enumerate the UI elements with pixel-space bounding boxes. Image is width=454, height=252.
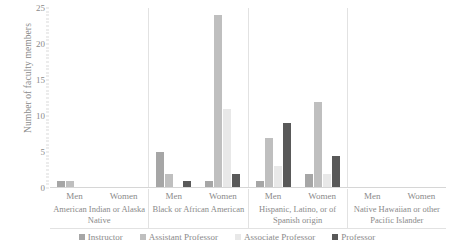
- y-minor-tick: [46, 105, 49, 106]
- x-gender-row: MenWomen: [348, 189, 446, 203]
- y-minor-tick: [46, 173, 49, 174]
- legend-item[interactable]: Assistant Professor: [140, 232, 218, 242]
- race-group: [50, 8, 149, 188]
- x-gender-label: Women: [198, 189, 247, 203]
- x-race-cell: MenWomenNative Hawaiian or other Pacific…: [348, 189, 446, 229]
- bar: [156, 152, 164, 188]
- y-minor-tick: [46, 80, 49, 81]
- y-minor-tick: [46, 26, 49, 27]
- y-minor-tick: [46, 141, 49, 142]
- y-minor-tick: [46, 119, 49, 120]
- gender-group: [348, 8, 397, 188]
- bar: [305, 174, 313, 188]
- bar-groups: [50, 8, 446, 188]
- bar: [232, 174, 240, 188]
- y-minor-tick: [46, 29, 49, 30]
- y-minor-tick: [46, 33, 49, 34]
- x-race-label: Black or African American: [149, 203, 247, 228]
- x-gender-label: Men: [50, 189, 99, 203]
- legend-item[interactable]: Professor: [332, 232, 375, 242]
- y-minor-tick: [46, 8, 49, 9]
- y-minor-tick: [46, 116, 49, 117]
- y-minor-tick: [46, 180, 49, 181]
- x-gender-label: Men: [149, 189, 198, 203]
- y-minor-tick: [46, 108, 49, 109]
- legend-label: Associate Professor: [244, 232, 315, 242]
- y-minor-tick: [46, 134, 49, 135]
- gender-group: [149, 8, 198, 188]
- y-minor-tick: [46, 94, 49, 95]
- legend-item[interactable]: Associate Professor: [235, 232, 315, 242]
- y-minor-tick: [46, 44, 49, 45]
- bar: [214, 15, 222, 188]
- bar: [314, 102, 322, 188]
- gender-group: [99, 8, 148, 188]
- y-minor-tick: [46, 148, 49, 149]
- y-minor-tick: [46, 51, 49, 52]
- legend-label: Assistant Professor: [149, 232, 218, 242]
- y-tick-label-20: 20: [36, 39, 45, 49]
- y-minor-tick: [46, 184, 49, 185]
- y-minor-tick: [46, 65, 49, 66]
- x-gender-label: Women: [298, 189, 347, 203]
- legend-item[interactable]: Instructor: [79, 232, 123, 242]
- y-minor-tick: [46, 47, 49, 48]
- gender-group: [50, 8, 99, 188]
- y-minor-tick: [46, 126, 49, 127]
- y-minor-tick: [46, 69, 49, 70]
- y-tick-label-15: 15: [36, 75, 45, 85]
- bar: [165, 174, 173, 188]
- race-group: [348, 8, 446, 188]
- x-race-cell: MenWomenBlack or African American: [149, 189, 248, 229]
- x-gender-row: MenWomen: [249, 189, 347, 203]
- y-minor-tick: [46, 22, 49, 23]
- gender-group: [298, 8, 347, 188]
- bar: [223, 109, 231, 188]
- y-minor-tick: [46, 87, 49, 88]
- bar-chart: Number of faculty members 0510152025 Men…: [0, 0, 454, 252]
- y-minor-tick: [46, 101, 49, 102]
- x-race-label: Native Hawaiian or other Pacific Islande…: [348, 203, 446, 228]
- x-gender-label: Women: [99, 189, 148, 203]
- y-minor-tick: [46, 11, 49, 12]
- race-group: [249, 8, 348, 188]
- plot-area: 0510152025: [50, 8, 446, 188]
- y-minor-tick: [46, 130, 49, 131]
- y-minor-tick: [46, 15, 49, 16]
- x-race-label: American Indian or Alaska Native: [50, 203, 148, 228]
- y-tick-label-10: 10: [36, 111, 45, 121]
- y-minor-tick: [46, 123, 49, 124]
- gender-group: [249, 8, 298, 188]
- legend-swatch-icon: [332, 234, 338, 240]
- x-axis-labels: MenWomenAmerican Indian or Alaska Native…: [50, 189, 446, 229]
- y-minor-tick: [46, 188, 49, 189]
- x-gender-row: MenWomen: [149, 189, 247, 203]
- x-axis-line: [50, 187, 446, 188]
- x-gender-row: MenWomen: [50, 189, 148, 203]
- legend-label: Professor: [341, 232, 375, 242]
- y-minor-tick: [46, 36, 49, 37]
- y-minor-tick: [46, 152, 49, 153]
- y-minor-tick: [46, 83, 49, 84]
- legend-swatch-icon: [140, 234, 146, 240]
- y-minor-tick: [46, 144, 49, 145]
- y-tick-label-25: 25: [36, 3, 45, 13]
- legend-label: Instructor: [88, 232, 123, 242]
- y-minor-tick: [46, 159, 49, 160]
- y-minor-tick: [46, 162, 49, 163]
- y-minor-tick: [46, 40, 49, 41]
- gender-group: [397, 8, 446, 188]
- y-minor-tick: [46, 177, 49, 178]
- chart-legend: InstructorAssistant ProfessorAssociate P…: [0, 232, 454, 242]
- bar: [265, 138, 273, 188]
- y-minor-tick: [46, 62, 49, 63]
- y-minor-tick: [46, 90, 49, 91]
- bar: [332, 156, 340, 188]
- gender-group: [198, 8, 247, 188]
- x-race-label: Hispanic, Latino, or of Spanish origin: [249, 203, 347, 228]
- bar: [323, 174, 331, 188]
- race-group: [149, 8, 248, 188]
- bar: [274, 166, 282, 188]
- y-minor-tick: [46, 112, 49, 113]
- y-minor-tick: [46, 58, 49, 59]
